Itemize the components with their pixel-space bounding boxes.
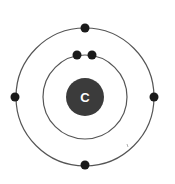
electron (81, 161, 90, 170)
electron (81, 24, 90, 33)
electron (150, 93, 159, 102)
atom-svg: C (0, 0, 175, 184)
tick-mark (127, 144, 128, 147)
element-symbol: C (80, 90, 90, 105)
bohr-diagram: C (0, 0, 175, 184)
electron (88, 51, 97, 60)
electron (11, 93, 20, 102)
electron (73, 51, 82, 60)
